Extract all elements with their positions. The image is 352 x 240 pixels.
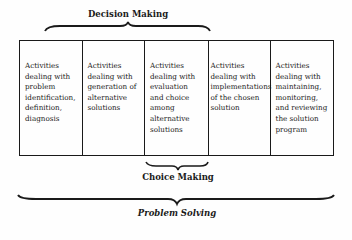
cell-maintaining-monitoring: Activities dealing with maintaining, mon… xyxy=(271,41,334,155)
cell-generation-of-alternatives: Activities dealing with generation of al… xyxy=(83,41,146,155)
choice-making-brace xyxy=(146,162,208,170)
decision-making-brace xyxy=(45,22,210,31)
cell-evaluation-and-choice: Activities dealing with evaluation and c… xyxy=(145,41,209,155)
problem-solving-label: Problem Solving xyxy=(127,208,227,218)
cell-problem-identification: Activities dealing with problem identifi… xyxy=(20,41,83,155)
cell-implementation: Activities dealing with implementations … xyxy=(209,41,271,155)
activities-table: Activities dealing with problem identifi… xyxy=(19,40,334,156)
choice-making-label: Choice Making xyxy=(128,172,228,182)
problem-solving-brace xyxy=(18,195,334,204)
